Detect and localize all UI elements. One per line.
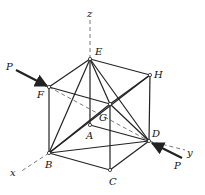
joint-label-D: D: [151, 128, 160, 139]
labels: zxyPPEHFGADBC: [5, 8, 193, 187]
joint-G: [108, 102, 111, 105]
force-arrow-icon: [152, 143, 182, 158]
joint-C: [108, 168, 111, 171]
joint-D: [147, 139, 150, 142]
x-axis-label: x: [10, 167, 16, 178]
coordinate-axes: [20, 20, 185, 172]
z-axis-label: z: [86, 8, 93, 19]
y-axis-line: [149, 141, 185, 150]
member-EH: [90, 59, 150, 75]
force-arrow-icon: [16, 70, 47, 86]
member-FG: [49, 87, 110, 104]
force-label: P: [5, 61, 13, 72]
member-HD: [149, 75, 150, 141]
joint-label-F: F: [36, 89, 45, 100]
joint-label-C: C: [109, 176, 117, 187]
joint-label-H: H: [153, 69, 163, 80]
joint-F: [47, 85, 50, 88]
joint-A: [88, 123, 91, 126]
joint-label-E: E: [94, 46, 103, 57]
member-BC: [49, 153, 110, 170]
member-BD: [49, 141, 149, 153]
force-label: P: [173, 160, 181, 171]
joint-B: [47, 151, 50, 154]
joint-E: [88, 57, 91, 60]
y-axis-label: y: [186, 147, 193, 158]
joint-label-G: G: [99, 112, 107, 123]
joint-H: [148, 73, 151, 76]
joint-label-A: A: [85, 130, 93, 141]
member-EG: [90, 59, 110, 104]
space-truss-diagram: zxyPPEHFGADBC: [0, 0, 205, 195]
member-ED: [90, 59, 149, 141]
joint-label-B: B: [44, 159, 52, 170]
